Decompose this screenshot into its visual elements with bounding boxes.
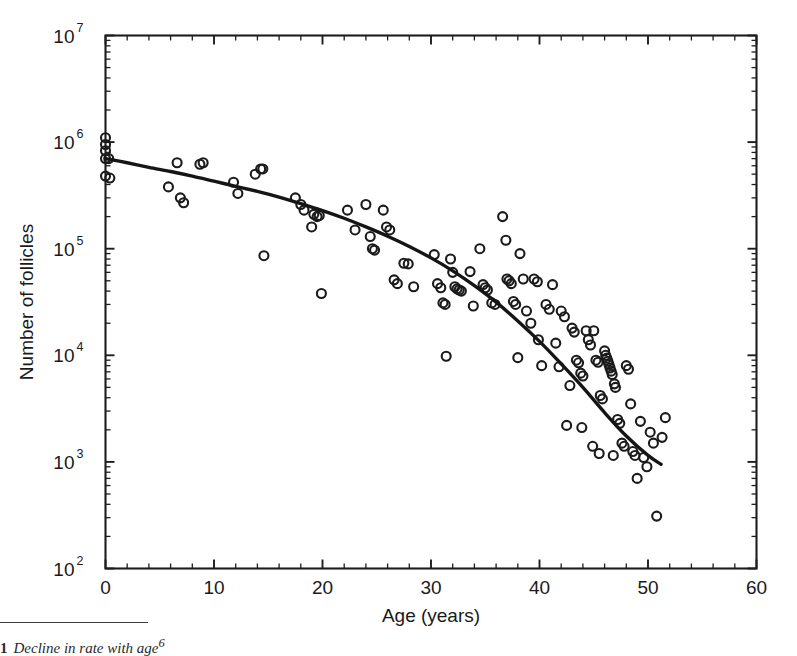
- data-point: [519, 274, 528, 283]
- data-point: [164, 182, 173, 191]
- y-tick-exponent: 2: [77, 554, 84, 568]
- figure-caption: 1Decline in rate with age6: [0, 636, 260, 656]
- y-tick-exponent: 7: [77, 21, 84, 35]
- data-point: [652, 512, 661, 521]
- data-point: [562, 421, 571, 430]
- data-point: [498, 212, 507, 221]
- y-tick-label: 10: [53, 452, 74, 473]
- data-point: [351, 225, 360, 234]
- y-tick-exponent: 3: [77, 447, 84, 461]
- data-point: [609, 451, 618, 460]
- plot-frame: [106, 36, 757, 569]
- y-tick-label: 10: [53, 345, 74, 366]
- data-point: [595, 449, 604, 458]
- x-tick-label: 30: [420, 577, 441, 598]
- data-point: [515, 249, 524, 258]
- data-point: [626, 399, 635, 408]
- x-tick-label: 0: [100, 577, 111, 598]
- caption-rule: [0, 622, 148, 623]
- data-point: [551, 339, 560, 348]
- caption-number: 1: [0, 640, 8, 656]
- data-point: [642, 462, 651, 471]
- figure-container: 0102030405060102103104105106107Age (year…: [0, 0, 797, 656]
- data-point: [537, 361, 546, 370]
- y-tick-exponent: 4: [77, 340, 84, 354]
- data-point: [259, 251, 268, 260]
- data-point: [343, 206, 352, 215]
- follicle-decline-chart: 0102030405060102103104105106107Age (year…: [0, 0, 797, 656]
- x-tick-label: 50: [637, 577, 658, 598]
- x-tick-label: 60: [746, 577, 767, 598]
- data-point: [658, 433, 667, 442]
- data-point: [409, 282, 418, 291]
- data-point: [633, 474, 642, 483]
- data-point: [442, 352, 451, 361]
- data-point: [446, 255, 455, 264]
- data-point: [574, 358, 583, 367]
- data-point: [307, 222, 316, 231]
- x-axis-title: Age (years): [382, 605, 480, 626]
- data-point: [661, 413, 670, 422]
- y-tick-label: 10: [53, 132, 74, 153]
- data-point: [366, 232, 375, 241]
- data-point: [594, 358, 603, 367]
- data-point: [646, 428, 655, 437]
- data-point: [173, 158, 182, 167]
- x-tick-label: 40: [529, 577, 550, 598]
- data-point: [526, 319, 535, 328]
- y-tick-exponent: 6: [77, 127, 84, 141]
- y-axis-title: Number of follicles: [16, 224, 37, 380]
- y-tick-label: 10: [53, 26, 74, 47]
- data-point: [565, 381, 574, 390]
- data-point: [501, 236, 510, 245]
- x-tick-label: 10: [203, 577, 224, 598]
- data-point: [522, 307, 531, 316]
- data-point: [379, 206, 388, 215]
- data-point: [469, 302, 478, 311]
- y-tick-exponent: 5: [77, 234, 84, 248]
- data-point: [317, 289, 326, 298]
- data-point: [361, 200, 370, 209]
- scatter-points-group: [101, 133, 670, 520]
- data-point: [636, 417, 645, 426]
- caption-superscript: 6: [158, 636, 164, 650]
- data-point: [233, 189, 242, 198]
- data-point: [513, 353, 522, 362]
- data-point: [577, 423, 586, 432]
- data-point: [548, 280, 557, 289]
- data-point: [466, 267, 475, 276]
- caption-body: Decline in rate with age: [14, 640, 159, 656]
- data-point: [475, 244, 484, 253]
- y-tick-label: 10: [53, 239, 74, 260]
- y-tick-label: 10: [53, 559, 74, 580]
- x-tick-label: 20: [312, 577, 333, 598]
- data-point: [649, 439, 658, 448]
